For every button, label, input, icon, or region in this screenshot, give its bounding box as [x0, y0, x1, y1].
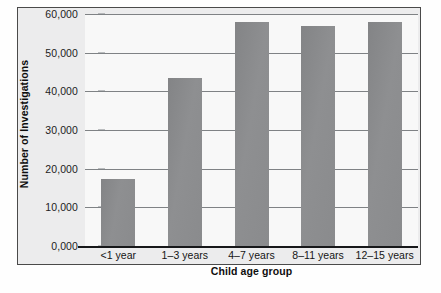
x-axis-tick-labels: <1 year1–3 years4–7 years8–11 years12–15…	[85, 249, 418, 265]
bar	[101, 179, 135, 246]
y-axis-tick-label: 0,000	[51, 240, 78, 252]
x-axis-title: Child age group	[85, 265, 418, 277]
x-axis-tick-label: 1–3 years	[162, 249, 209, 261]
bars-layer	[85, 14, 418, 246]
x-axis-line	[78, 246, 418, 248]
y-axis-tick-label: 30,000	[45, 124, 78, 136]
y-axis-tick-label: 50,000	[45, 47, 78, 59]
bar	[168, 78, 202, 246]
bar-chart-figure: 0,00010,00020,00030,00040,00050,00060,00…	[0, 0, 441, 293]
y-axis-tick-label: 10,000	[45, 201, 78, 213]
bar	[368, 22, 402, 246]
y-axis-tick-label: 40,000	[45, 85, 78, 97]
y-axis-title: Number of Investigations	[18, 34, 30, 214]
x-axis-tick-label: <1 year	[100, 249, 136, 261]
bar	[235, 22, 269, 246]
x-axis-tick-label: 8–11 years	[292, 249, 344, 261]
x-axis-tick-label: 12–15 years	[356, 249, 414, 261]
y-axis-tick-label: 60,000	[45, 8, 78, 20]
y-axis-tick-label: 20,000	[45, 163, 78, 175]
bar	[301, 26, 335, 246]
x-axis-tick-label: 4–7 years	[228, 249, 275, 261]
